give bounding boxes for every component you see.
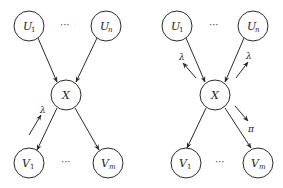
lambda-label: λ (39, 105, 46, 115)
node-x: X (200, 80, 230, 110)
message-arrow-lambda (29, 115, 41, 135)
edge-x-to-v1 (187, 108, 206, 148)
edge-x-to-vm (75, 108, 99, 150)
edge-u1-to-x (38, 38, 57, 82)
node-un: U n (91, 11, 121, 41)
svg-text:1: 1 (30, 163, 34, 171)
left-diagram: λ U 1 ··· U n X V 1 ··· V m (14, 11, 123, 178)
node-un: U n (238, 11, 268, 41)
right-diagram: λ λ π U 1 ··· U n X V 1 ··· V (162, 11, 273, 178)
message-arrow-lambda-u1 (183, 63, 196, 78)
lambda-label-u1: λ (178, 52, 185, 62)
node-v1: V 1 (14, 148, 44, 178)
node-u1: U 1 (162, 11, 192, 41)
svg-text:X: X (61, 89, 71, 102)
bottom-ellipsis: ··· (215, 156, 225, 167)
message-arrow-pi (235, 106, 248, 121)
top-ellipsis: ··· (60, 19, 70, 30)
edge-un-to-x (76, 38, 97, 82)
svg-text:m: m (259, 163, 266, 171)
message-arrow-lambda-un (236, 62, 248, 78)
svg-text:n: n (108, 26, 113, 34)
svg-text:1: 1 (187, 163, 191, 171)
top-ellipsis: ··· (209, 19, 219, 30)
bottom-ellipsis: ··· (61, 156, 71, 167)
svg-text:X: X (210, 89, 220, 102)
svg-text:1: 1 (31, 26, 35, 34)
node-v1: V 1 (171, 148, 201, 178)
pi-label: π (247, 124, 255, 134)
edge-un-to-x (225, 38, 244, 82)
node-vm: V m (243, 148, 273, 178)
edge-u1-to-x (186, 38, 205, 82)
node-x: X (51, 80, 81, 110)
node-u1: U 1 (14, 11, 44, 41)
lambda-label-un: λ (245, 51, 252, 61)
bayesian-network-diagrams: λ U 1 ··· U n X V 1 ··· V m (0, 0, 283, 188)
node-vm: V m (93, 148, 123, 178)
svg-text:m: m (109, 163, 116, 171)
svg-text:n: n (255, 26, 260, 34)
svg-text:1: 1 (179, 26, 183, 34)
